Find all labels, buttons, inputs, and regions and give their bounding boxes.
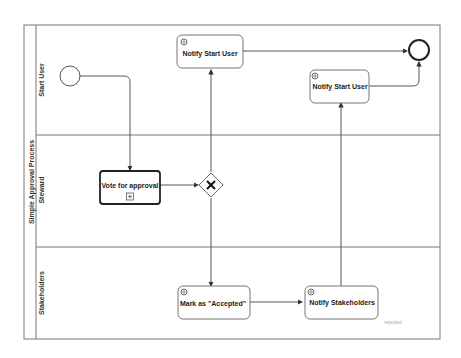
bpmn-diagram: Simple Approval Process Start User Stewa… xyxy=(0,0,461,358)
task-label: Notify Start User xyxy=(312,83,368,91)
end-event[interactable] xyxy=(409,40,429,60)
rejected-annotation: rejected xyxy=(384,319,402,325)
start-event[interactable] xyxy=(60,66,80,86)
task-label: Notify Start User xyxy=(182,50,238,58)
exclusive-gateway[interactable] xyxy=(199,173,223,197)
lane-stakeholders: Stakeholders xyxy=(38,271,45,315)
task-label: Vote for approval xyxy=(101,182,158,190)
pool-label: Simple Approval Process xyxy=(28,140,36,224)
task-mark-accepted[interactable]: Mark as "Accepted" xyxy=(178,286,250,319)
lane-start-user: Start User xyxy=(36,63,440,135)
subprocess-vote-for-approval[interactable]: Vote for approval xyxy=(100,171,160,204)
lane-steward: Steward xyxy=(36,176,440,247)
task-label: Mark as "Accepted" xyxy=(180,300,246,308)
lane-label-stakeholders: Stakeholders xyxy=(38,271,45,315)
lane-label-steward: Steward xyxy=(38,176,45,203)
task-label: Notify Stakeholders xyxy=(309,299,375,307)
lane-label-start-user: Start User xyxy=(38,63,45,97)
task-notify-start-user-1[interactable]: Notify Start User xyxy=(177,35,243,68)
task-notify-start-user-2[interactable]: Notify Start User xyxy=(310,70,369,103)
task-notify-stakeholders[interactable]: Notify Stakeholders xyxy=(305,286,378,319)
subprocess-plus-icon[interactable] xyxy=(127,193,134,200)
